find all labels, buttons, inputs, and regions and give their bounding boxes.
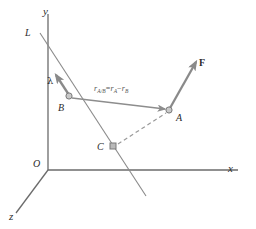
equation-lhs-subscript: A/B xyxy=(97,88,106,94)
point-label-b: B xyxy=(58,103,64,113)
force-vector-label: F xyxy=(199,58,205,68)
equation-term2-subscript: B xyxy=(125,88,128,94)
z-axis-line xyxy=(16,170,48,213)
x-axis-label: x xyxy=(228,163,233,174)
y-axis-label: y xyxy=(43,6,48,17)
point-marker-a xyxy=(166,107,172,113)
origin-label: O xyxy=(33,159,40,169)
force-vector-arrow xyxy=(170,62,196,108)
z-axis-label: z xyxy=(9,211,13,222)
point-marker-b xyxy=(66,93,72,99)
point-label-a: A xyxy=(176,113,182,123)
unit-vector-lambda-arrow xyxy=(56,75,69,95)
line-L xyxy=(40,33,146,196)
point-marker-c xyxy=(110,143,116,149)
diagram-canvas xyxy=(0,0,256,229)
vector-diagram-figure: y x z O L λ F B A C rA/B=rA−rB xyxy=(0,0,256,229)
point-label-c: C xyxy=(97,142,104,152)
line-L-label: L xyxy=(25,28,31,38)
dashed-segment-c-to-a xyxy=(118,113,166,144)
equation-term1-subscript: A xyxy=(114,88,117,94)
unit-vector-lambda-label: λ xyxy=(47,76,53,86)
relative-position-equation: rA/B=rA−rB xyxy=(94,85,128,93)
